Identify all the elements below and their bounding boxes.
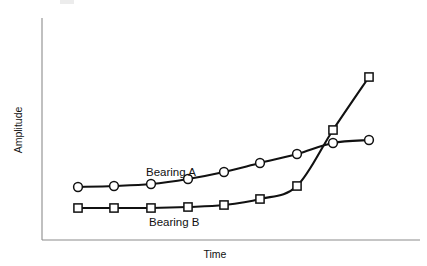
data-point-marker-square — [365, 73, 373, 81]
data-point-marker-circle — [365, 136, 374, 145]
x-axis-label: Time — [204, 248, 227, 260]
data-point-marker-square — [74, 204, 82, 212]
data-point-marker-circle — [110, 182, 119, 191]
data-point-marker-square — [184, 203, 192, 211]
amplitude-vs-time-chart: Bearing A Bearing B Amplitude Time — [0, 0, 427, 266]
series-a-markers — [74, 136, 374, 192]
data-point-marker-circle — [329, 139, 338, 148]
series-bearing-a — [74, 136, 374, 192]
series-b-line — [78, 77, 369, 208]
axes-group — [42, 18, 420, 240]
data-point-marker-circle — [256, 159, 265, 168]
series-a-line — [78, 140, 369, 187]
data-point-marker-circle — [220, 168, 229, 177]
data-point-marker-circle — [74, 183, 83, 192]
series-a-label: Bearing A — [146, 166, 196, 178]
data-point-marker-square — [220, 201, 228, 209]
series-b-label: Bearing B — [149, 216, 200, 228]
chart-figure: Bearing A Bearing B Amplitude Time — [0, 0, 427, 266]
data-point-marker-square — [293, 182, 301, 190]
data-point-marker-square — [147, 204, 155, 212]
data-point-marker-circle — [293, 150, 302, 159]
y-axis-label: Amplitude — [12, 107, 24, 154]
data-point-marker-circle — [147, 180, 156, 189]
data-point-marker-square — [110, 204, 118, 212]
data-point-marker-square — [329, 126, 337, 134]
data-point-marker-square — [256, 195, 264, 203]
